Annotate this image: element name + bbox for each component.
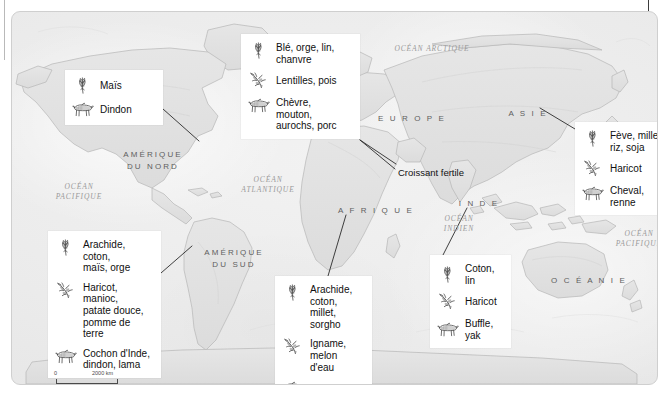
legume-icon — [248, 72, 270, 89]
animal-icon — [55, 348, 77, 365]
callout-row: Maïs — [72, 77, 155, 94]
callout-row: Fève, millet, riz, soja — [582, 129, 658, 153]
callout-text: Arachide, coton, millet, sorgho — [310, 283, 364, 330]
grain-icon — [72, 77, 94, 94]
legume-icon — [437, 293, 459, 310]
page-root: AMÉRIQUE DU NORDAMÉRIQUE DU SUDE U R O P… — [0, 0, 667, 395]
scale-bar-rule — [56, 379, 118, 384]
callout-text: Cochon d'Inde, dindon, lama — [83, 347, 150, 371]
callout-row: Arachide, coton, millet, sorgho — [282, 283, 364, 330]
map-point-label-croissant-fertile: Croissant fertile — [398, 167, 464, 178]
map-label-ocean-indien: OCÉAN INDIEN — [430, 214, 488, 234]
callout-inde[interactable]: Coton, lin Haricot — [430, 255, 511, 348]
map-label-oceanie: O C É A N I E — [543, 275, 635, 287]
callout-row: Igname, melon d'eau — [282, 337, 364, 373]
callout-text: Blé, orge, lin, chanvre — [276, 41, 334, 65]
callout-row: Chèvre, mouton, aurochs, porc — [248, 96, 352, 132]
map-label-amerique-du-nord: AMÉRIQUE DU NORD — [107, 149, 199, 172]
animal-icon — [72, 101, 94, 118]
map-label-inde: I N D E — [455, 198, 503, 210]
callout-row: Lentilles, pois — [248, 72, 352, 89]
callout-text: Lentilles, pois — [276, 74, 337, 87]
map-label-afrique: A F R I Q U E — [330, 205, 422, 217]
animal-icon — [582, 185, 604, 202]
callout-text: Igname, melon d'eau — [310, 337, 364, 373]
callout-row: Aurochs — [282, 380, 364, 385]
grain-icon — [248, 42, 270, 59]
callout-text: Aurochs — [310, 382, 347, 385]
callout-text: Dindon — [100, 103, 132, 116]
callout-asie[interactable]: Fève, millet, riz, soja Haricot — [575, 122, 658, 215]
callout-text: Maïs — [100, 79, 122, 92]
world-map-plate: AMÉRIQUE DU NORDAMÉRIQUE DU SUDE U R O P… — [11, 11, 658, 385]
animal-icon — [248, 97, 270, 114]
map-label-ocean-atlantique: OCÉAN ATLANTIQUE — [234, 175, 302, 195]
map-label-europe: E U R O P E — [369, 113, 455, 125]
callout-text: Haricot — [610, 162, 642, 175]
animal-icon — [437, 321, 459, 338]
grain-icon — [437, 266, 459, 283]
callout-text: Cheval, renne — [610, 184, 644, 208]
callout-row: Cheval, renne — [582, 184, 658, 208]
scale-bar: 0 2000 km — [54, 370, 132, 385]
callout-text: Coton, lin — [465, 262, 503, 286]
map-label-ocean-arctique: OCÉAN ARCTIQUE — [386, 44, 478, 54]
legume-icon — [282, 338, 304, 355]
scale-bar-zero-label: 0 — [54, 370, 57, 376]
map-label-ocean-pacifique-est: OCÉAN PACIFIQUE — [608, 229, 658, 249]
animal-icon — [282, 380, 304, 385]
grain-icon — [282, 284, 304, 301]
callout-row: Haricot — [582, 160, 658, 177]
callout-row: Blé, orge, lin, chanvre — [248, 41, 352, 65]
grain-icon — [582, 130, 604, 147]
callout-text: Haricot — [465, 295, 497, 308]
callout-text: Chèvre, mouton, aurochs, porc — [276, 96, 337, 132]
callout-afrique[interactable]: Arachide, coton, millet, sorgho Igname, … — [275, 276, 372, 385]
legume-icon — [582, 160, 604, 177]
callout-croissant-fertile[interactable]: Blé, orge, lin, chanvre Lentilles, pois — [241, 34, 360, 139]
legume-icon — [55, 282, 77, 299]
callout-text: Haricot, manioc, patate douce, pomme de … — [83, 281, 153, 340]
page-edge-rule-left — [4, 0, 5, 60]
callout-row: Cochon d'Inde, dindon, lama — [55, 347, 153, 371]
callout-row: Arachide, coton, maïs, orge — [55, 238, 153, 274]
callout-row: Dindon — [72, 101, 155, 118]
callout-text: Arachide, coton, maïs, orge — [83, 238, 153, 274]
map-label-amerique-du-sud: AMÉRIQUE DU SUD — [190, 247, 278, 270]
map-label-ocean-pacifique-ouest: OCÉAN PACIFIQUE — [48, 182, 110, 202]
callout-row: Coton, lin — [437, 262, 503, 286]
map-label-asie: A S I E — [500, 108, 556, 120]
callout-row: Haricot — [437, 293, 503, 310]
callout-amerique-du-nord[interactable]: Maïs Dindon — [65, 70, 163, 125]
scale-bar-max-label: 2000 km — [92, 370, 113, 376]
callout-text: Fève, millet, riz, soja — [610, 129, 658, 153]
callout-text: Buffle, yak — [465, 317, 503, 341]
callout-row: Haricot, manioc, patate douce, pomme de … — [55, 281, 153, 340]
callout-row: Buffle, yak — [437, 317, 503, 341]
grain-icon — [55, 239, 77, 256]
callout-amerique-du-sud[interactable]: Arachide, coton, maïs, orge Haricot, man… — [48, 231, 161, 378]
